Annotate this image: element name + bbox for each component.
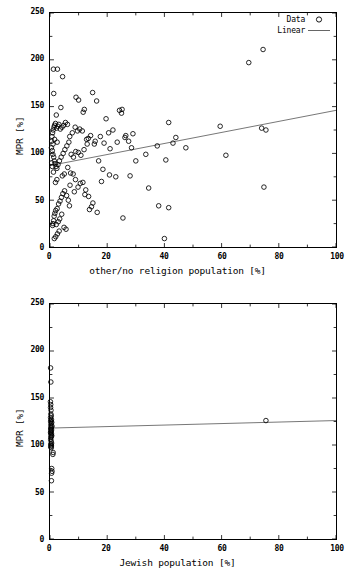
xtick-bottom-40: 40 [151,545,177,553]
data-point [101,167,106,172]
regression-line [50,110,336,165]
data-point [121,216,126,221]
plot-canvas-top [50,13,336,247]
data-point [83,188,88,193]
yaxis-title-top: MPR [%] [14,116,25,155]
ytick-bottom-150: 150 [18,394,44,402]
data-point [86,194,91,199]
data-point [74,95,79,100]
data-point [102,141,107,146]
legend-entry-linear: Linear [247,25,331,36]
data-point [51,170,56,175]
data-point [95,210,100,215]
legend-marker-circle-icon [307,14,331,25]
ytick-bottom-50: 50 [18,489,44,497]
chart-panel-top: 250 200 150 100 50 0 0 20 40 60 80 100 o… [0,0,355,291]
legend-marker-line-icon [307,25,331,36]
data-point [90,90,95,95]
data-point [82,107,87,112]
data-point [155,144,160,149]
data-point [68,183,73,188]
plot-area-bottom [49,303,337,540]
data-point [73,125,78,130]
xaxis-title-bottom: Jewish population [%] [0,557,355,568]
xtick-top-20: 20 [93,253,119,261]
data-point [49,478,54,483]
data-point [134,159,139,164]
data-point [76,98,81,103]
xtick-bottom-80: 80 [266,545,292,553]
data-point [98,134,103,139]
data-point [111,128,116,133]
ytick-bottom-250: 250 [18,299,44,307]
ytick-top-150: 150 [18,102,44,110]
chart-panel-bottom: 250 200 150 100 50 0 0 20 40 60 80 100 J… [0,291,355,582]
data-point [218,124,223,129]
data-point [174,135,179,140]
data-point [52,214,57,219]
plot-area-top [49,12,337,248]
data-point [82,147,87,152]
xtick-top-60: 60 [209,253,235,261]
data-point [54,113,59,118]
data-point [104,116,109,121]
legend-label-linear: Linear [277,25,305,36]
data-point [65,165,70,170]
ytick-top-0: 0 [18,244,44,252]
legend-entry-data: Data [247,14,331,25]
data-point [67,204,72,209]
data-point [107,173,112,178]
data-point [66,198,71,203]
data-point [162,236,167,241]
data-point [79,153,84,158]
data-point [108,146,113,151]
data-point [67,134,72,139]
data-point [59,212,64,217]
data-point [76,185,81,190]
scatter-points [49,47,268,241]
ytick-top-250: 250 [18,8,44,16]
data-point [166,205,171,210]
data-point [156,204,161,209]
data-point [60,74,65,79]
regression-line [50,421,336,429]
yaxis-title-bottom: MPR [%] [14,408,25,447]
data-point [224,153,229,158]
xaxis-title-top: other/no religion population [%] [0,265,355,276]
data-point [48,366,53,371]
data-point [81,110,86,115]
data-point [246,60,251,65]
data-point [146,186,151,191]
data-point [96,159,101,164]
xtick-bottom-60: 60 [209,545,235,553]
ytick-bottom-200: 200 [18,346,44,354]
axis-ticks [50,13,336,247]
data-point [144,152,149,157]
xtick-top-40: 40 [151,253,177,261]
data-point [59,105,64,110]
data-point [126,139,131,144]
data-point [92,142,97,147]
data-point [55,140,60,145]
plot-canvas-bottom [50,304,336,539]
data-point [49,380,54,385]
data-point [73,177,78,182]
xtick-top-100: 100 [324,253,350,261]
xtick-top-80: 80 [266,253,292,261]
data-point [51,91,56,96]
data-point [261,47,266,52]
data-point [93,139,98,144]
data-point [115,140,120,145]
data-point [99,179,104,184]
data-point [85,142,90,147]
data-point [184,146,189,151]
ytick-top-200: 200 [18,55,44,63]
data-point [67,140,72,145]
legend-top: Data Linear [247,14,331,36]
scatter-points [48,366,268,483]
xtick-bottom-0: 0 [36,545,62,553]
data-point [72,189,77,194]
data-point [131,131,136,136]
data-point [106,131,111,136]
data-point [128,174,133,179]
